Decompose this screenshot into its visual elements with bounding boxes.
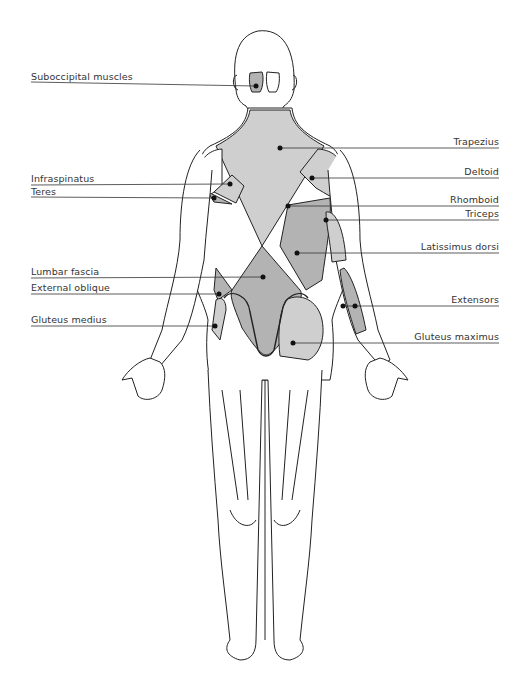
label-triceps: Triceps	[465, 208, 499, 219]
hand-right	[365, 358, 408, 399]
label-suboccipital-muscles: Suboccipital muscles	[31, 71, 133, 82]
label-lumbar-fascia: Lumbar fascia	[31, 266, 99, 277]
dot-trapezius	[278, 146, 283, 151]
suboccipital-left	[249, 72, 263, 92]
dot-triceps	[324, 218, 329, 223]
hand-left	[122, 358, 165, 399]
dot-lumbar-fascia	[261, 275, 266, 280]
anatomy-diagram: Suboccipital muscles Infraspinatus Teres…	[0, 0, 530, 691]
dot-rhomboid	[286, 204, 291, 209]
dot-infraspinatus	[228, 182, 233, 187]
dot-deltoid	[310, 176, 315, 181]
label-rhomboid: Rhomboid	[450, 194, 499, 205]
dot-gluteus-medius	[213, 324, 218, 329]
head-outline	[235, 31, 295, 112]
dot-extensors-1	[341, 304, 346, 309]
suboccipital-right	[266, 72, 279, 92]
body-back-view-illustration	[0, 0, 530, 691]
dot-external-oblique	[217, 292, 222, 297]
dot-extensors-2	[353, 304, 358, 309]
label-teres: Teres	[31, 186, 56, 197]
label-gluteus-maximus: Gluteus maximus	[414, 331, 499, 342]
label-extensors: Extensors	[451, 294, 499, 305]
arm-left	[150, 150, 212, 366]
label-infraspinatus: Infraspinatus	[31, 173, 94, 184]
gluteus-maximus-right	[279, 297, 323, 360]
dot-gluteus-maximus	[291, 341, 296, 346]
dot-latissimus	[295, 251, 300, 256]
label-latissimus-dorsi: Latissimus dorsi	[421, 241, 499, 252]
label-gluteus-medius: Gluteus medius	[31, 314, 107, 325]
label-external-oblique: External oblique	[31, 282, 110, 293]
dot-teres	[212, 196, 217, 201]
dot-suboccipital	[254, 84, 259, 89]
label-deltoid: Deltoid	[464, 166, 499, 177]
label-trapezius: Trapezius	[453, 136, 499, 147]
